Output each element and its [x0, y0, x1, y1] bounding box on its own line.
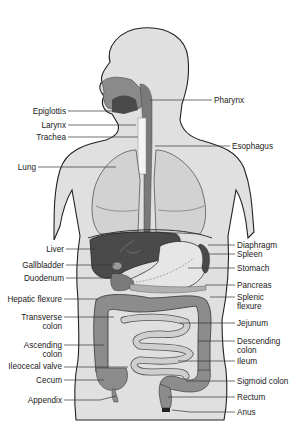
label-trachea: Trachea: [36, 133, 66, 142]
label-lung: Lung: [18, 163, 36, 172]
label-transverse-colon: Transversecolon: [21, 313, 62, 331]
label-text: Trachea: [36, 133, 66, 142]
label-spleen: Spleen: [237, 250, 263, 259]
label-duodenum: Duodenum: [24, 274, 64, 283]
label-text: colon: [24, 350, 62, 359]
label-text: Duodenum: [24, 274, 64, 283]
label-text: Spleen: [237, 250, 263, 259]
label-esophagus: Esophagus: [232, 142, 273, 151]
label-text: Splenic: [237, 293, 264, 302]
label-ascending-colon: Ascendingcolon: [24, 341, 62, 359]
label-text: Pancreas: [237, 281, 272, 290]
label-text: Anus: [237, 408, 256, 417]
rectum: [159, 384, 171, 408]
label-diaphragm: Diaphragm: [237, 241, 277, 250]
anus: [162, 408, 170, 412]
label-ileocecal-valve: Ileocecal valve: [8, 362, 62, 371]
label-jejunum: Jejunum: [237, 319, 268, 328]
label-text: Liver: [46, 245, 64, 254]
label-liver: Liver: [46, 245, 64, 254]
label-text: Ileum: [237, 357, 257, 366]
label-pharynx: Pharynx: [214, 96, 244, 105]
label-ileum: Ileum: [237, 357, 257, 366]
label-pancreas: Pancreas: [237, 281, 272, 290]
label-text: colon: [21, 322, 62, 331]
label-text: Gallbladder: [22, 261, 64, 270]
label-text: Rectum: [237, 393, 265, 402]
label-text: Epiglottis: [33, 107, 66, 116]
label-text: Diaphragm: [237, 241, 277, 250]
label-text: colon: [237, 346, 280, 355]
label-larynx: Larynx: [41, 121, 66, 130]
label-splenic-flexure: Splenicflexure: [237, 293, 264, 311]
label-text: Lung: [18, 163, 36, 172]
label-text: Larynx: [41, 121, 66, 130]
label-anus: Anus: [237, 408, 256, 417]
label-text: Sigmoid colon: [237, 377, 288, 386]
label-text: Transverse: [21, 313, 62, 322]
label-text: Stomach: [237, 264, 269, 273]
label-descending-colon: Descendingcolon: [237, 337, 280, 355]
label-text: Hepatic flexure: [7, 295, 62, 304]
label-text: Cecum: [36, 376, 62, 385]
label-text: Descending: [237, 337, 280, 346]
trachea: [138, 118, 146, 174]
label-text: Pharynx: [214, 96, 244, 105]
label-text: Appendix: [28, 396, 62, 405]
label-text: Ascending: [24, 341, 62, 350]
label-appendix: Appendix: [28, 396, 62, 405]
label-cecum: Cecum: [36, 376, 62, 385]
label-text: Ileocecal valve: [8, 362, 62, 371]
label-text: Jejunum: [237, 319, 268, 328]
anatomy-figure: EpiglottisLarynxTracheaLungLiverGallblad…: [0, 0, 301, 442]
label-hepatic-flexure: Hepatic flexure: [7, 295, 62, 304]
label-gallbladder: Gallbladder: [22, 261, 64, 270]
label-rectum: Rectum: [237, 393, 265, 402]
gallbladder: [112, 262, 122, 270]
label-text: Esophagus: [232, 142, 273, 151]
label-epiglottis: Epiglottis: [33, 107, 66, 116]
label-sigmoid-colon: Sigmoid colon: [237, 377, 288, 386]
label-text: flexure: [237, 302, 264, 311]
label-stomach: Stomach: [237, 264, 269, 273]
